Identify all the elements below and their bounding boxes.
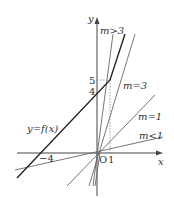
y-axis-label: y [87,13,94,24]
tick-label-x-neg4: −4 [39,153,54,164]
tick-label-y4: 4 [89,86,95,97]
diagram-canvas: y x O 1 −4 5 4 y=f(x) m>3 m=3 m=1 m<1 [0,0,174,198]
x-axis-label: x [158,156,164,167]
label-m-eq-1: m=1 [138,111,162,122]
label-m-gt-3: m>3 [100,25,124,36]
label-m-eq-3: m=3 [123,80,147,91]
label-m-lt-1: m<1 [139,130,163,141]
origin-label: O [99,154,107,165]
x-axis-arrow-icon [156,151,163,156]
function-label: y=f(x) [26,123,58,134]
y-axis-arrow-icon [95,17,100,24]
tick-label-y5: 5 [89,75,95,86]
tick-label-x1: 1 [108,154,114,165]
